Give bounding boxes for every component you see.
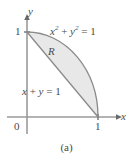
line-eq-var-y: y — [39, 85, 44, 97]
line-eq-plus: + — [30, 85, 36, 97]
region-label: R — [48, 46, 55, 57]
y-axis-label: y — [28, 6, 33, 17]
origin-label: 0 — [14, 121, 20, 132]
figure-container: y x 1 1 0 R x2 + y2 = 1 x + y = 1 (a) — [0, 0, 133, 158]
circle-eq-exp-y: 2 — [75, 24, 79, 32]
y-tick-one-label: 1 — [15, 26, 21, 37]
circle-equation-label: x2 + y2 = 1 — [50, 25, 96, 37]
line-equation-label: x + y = 1 — [22, 86, 61, 97]
figure-caption: (a) — [0, 141, 133, 153]
line-eq-value: 1 — [55, 85, 61, 97]
x-axis-label: x — [121, 111, 126, 122]
circle-eq-value: 1 — [90, 25, 96, 37]
x-tick-one-label: 1 — [95, 121, 101, 132]
